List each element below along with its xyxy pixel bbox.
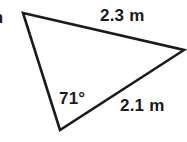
label-side-bottom-right: 2.1 m xyxy=(120,97,164,114)
label-side-top: 2.3 m xyxy=(100,7,144,24)
triangle-shape xyxy=(0,0,187,142)
clipped-label-fragment: m xyxy=(0,9,3,26)
label-angle-bottom-left: 71° xyxy=(59,90,85,107)
triangle-figure: m 2.3 m 71° 2.1 m xyxy=(0,0,187,142)
